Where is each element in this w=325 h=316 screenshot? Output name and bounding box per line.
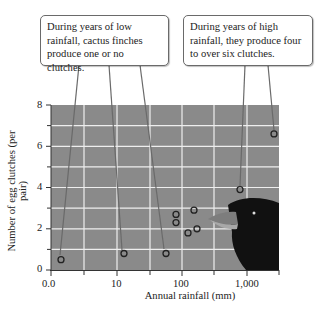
y-tick-8: 8	[37, 99, 42, 110]
x-tick-1000: 1,000	[235, 278, 259, 289]
x-tick-0: 0.0	[42, 278, 55, 289]
y-tick-2: 2	[37, 222, 42, 233]
y-tick-6: 6	[37, 140, 42, 151]
x-axis-label: Annual rainfall (mm)	[100, 290, 280, 301]
x-tick-100: 100	[173, 278, 189, 289]
y-tick-4: 4	[37, 181, 42, 192]
y-tick-0: 0	[37, 263, 42, 274]
callout-low-rainfall: During years of low rainfall, cactus fin…	[40, 15, 169, 66]
callout-high-rainfall: During years of high rainfall, they prod…	[183, 15, 313, 66]
x-tick-10: 10	[111, 278, 122, 289]
y-axis-label: Number of egg clutches (per pair)	[6, 121, 28, 261]
